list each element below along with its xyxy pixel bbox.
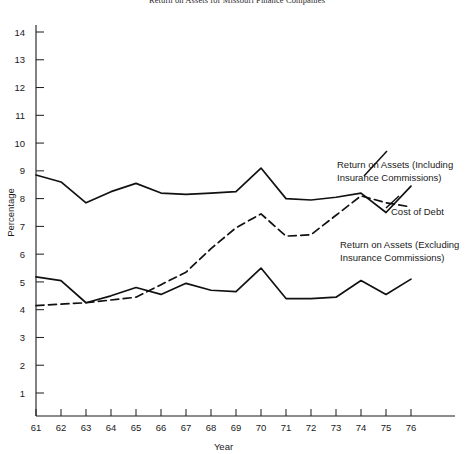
y-axis: 1234567891011121314Percentage bbox=[5, 25, 44, 416]
x-tick-label: 63 bbox=[81, 422, 92, 433]
x-tick-label: 61 bbox=[31, 422, 42, 433]
x-tick-label: 74 bbox=[356, 422, 367, 433]
y-tick-label: 2 bbox=[20, 360, 25, 371]
x-tick-label: 71 bbox=[281, 422, 292, 433]
return-on-assets-excluding-label-line: Insurance Commissions) bbox=[340, 252, 445, 263]
return-on-assets-including-label: Return on Assets (IncludingInsurance Com… bbox=[337, 159, 453, 183]
y-axis-title: Percentage bbox=[5, 188, 16, 237]
y-tick-label: 3 bbox=[20, 332, 25, 343]
x-tick-label: 64 bbox=[106, 422, 117, 433]
data-series-group bbox=[36, 168, 411, 305]
x-tick-label: 68 bbox=[206, 422, 217, 433]
cost-of-debt-label: Cost of Debt bbox=[391, 206, 444, 217]
series-line-1 bbox=[36, 196, 411, 306]
x-tick-label: 70 bbox=[256, 422, 267, 433]
y-tick-label: 9 bbox=[20, 165, 25, 176]
return-on-assets-including-label-line: Insurance Commissions) bbox=[337, 172, 442, 183]
x-tick-label: 69 bbox=[231, 422, 242, 433]
x-tick-label: 62 bbox=[56, 422, 67, 433]
y-tick-label: 5 bbox=[20, 277, 25, 288]
cost-of-debt-label-line: Cost of Debt bbox=[391, 206, 444, 217]
x-tick-label: 65 bbox=[131, 422, 142, 433]
x-tick-label: 66 bbox=[156, 422, 167, 433]
x-tick-label: 75 bbox=[381, 422, 392, 433]
y-tick-label: 14 bbox=[14, 27, 25, 38]
chart-container: Return on Assets for Missouri Finance Co… bbox=[0, 0, 474, 454]
x-tick-label: 73 bbox=[331, 422, 342, 433]
y-tick-label: 13 bbox=[14, 54, 25, 65]
y-tick-label: 8 bbox=[20, 193, 25, 204]
x-axis: 61626364656667686970717273747576Year bbox=[31, 409, 455, 452]
y-tick-label: 10 bbox=[14, 138, 25, 149]
return-on-assets-excluding-label: Return on Assets (ExcludingInsurance Com… bbox=[340, 239, 459, 263]
y-tick-label: 7 bbox=[20, 221, 25, 232]
return-on-assets-including-label-line: Return on Assets (Including bbox=[337, 159, 453, 170]
y-tick-label: 1 bbox=[20, 388, 25, 399]
annotation-group: Return on Assets (IncludingInsurance Com… bbox=[337, 159, 459, 263]
x-axis-title: Year bbox=[214, 441, 233, 452]
y-tick-label: 6 bbox=[20, 249, 25, 260]
x-tick-label: 67 bbox=[181, 422, 192, 433]
return-on-assets-excluding-label-line: Return on Assets (Excluding bbox=[340, 239, 459, 250]
chart-plot-area: 1234567891011121314Percentage 6162636465… bbox=[0, 0, 474, 454]
y-tick-label: 12 bbox=[14, 82, 25, 93]
x-tick-label: 76 bbox=[406, 422, 417, 433]
y-tick-label: 4 bbox=[20, 304, 25, 315]
y-tick-label: 11 bbox=[15, 110, 25, 121]
x-tick-label: 72 bbox=[306, 422, 317, 433]
series-line-2 bbox=[36, 268, 411, 303]
